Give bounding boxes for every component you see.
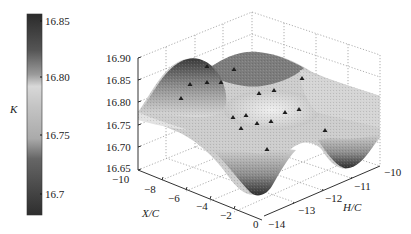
z-tick-label: 16.75: [106, 119, 131, 131]
y-tick-label: −11: [354, 180, 371, 192]
y-tick-label: −10: [384, 166, 402, 178]
x-tick-label: −6: [168, 192, 180, 204]
surface-texture: [138, 52, 380, 195]
x-tick-label: −4: [196, 200, 208, 212]
colorbar-tick-label: 16.80: [45, 71, 70, 83]
colorbar-tick-label: 16.75: [45, 129, 70, 141]
z-tick-label: 16.70: [106, 141, 131, 153]
colorbar: 16.85 16.80 16.75 16.7 K: [9, 14, 70, 215]
surface-figure: 16.85 16.80 16.75 16.7 K: [0, 0, 411, 234]
x-tick-label: 0: [253, 218, 259, 230]
colorbar-tick-label: 16.7: [45, 188, 65, 200]
surface: [138, 52, 380, 196]
x-tick-label: −10: [112, 173, 130, 185]
z-tick-label: 16.85: [106, 74, 131, 86]
colorbar-tick-label: 16.85: [45, 15, 70, 27]
y-tick-label: −13: [298, 204, 316, 216]
x-axis-label: X/C: [141, 207, 160, 219]
z-tick-label: 16.90: [106, 52, 131, 64]
x-tick-label: −8: [144, 183, 156, 195]
y-tick-label: −14: [268, 218, 286, 230]
colorbar-gradient: [27, 14, 42, 215]
x-tick-label: −2: [220, 209, 232, 221]
y-axis-label: H/C: [342, 201, 362, 213]
z-tick-label: 16.80: [106, 96, 131, 108]
y-tick-label: −12: [325, 192, 342, 204]
colorbar-label: K: [9, 103, 18, 115]
